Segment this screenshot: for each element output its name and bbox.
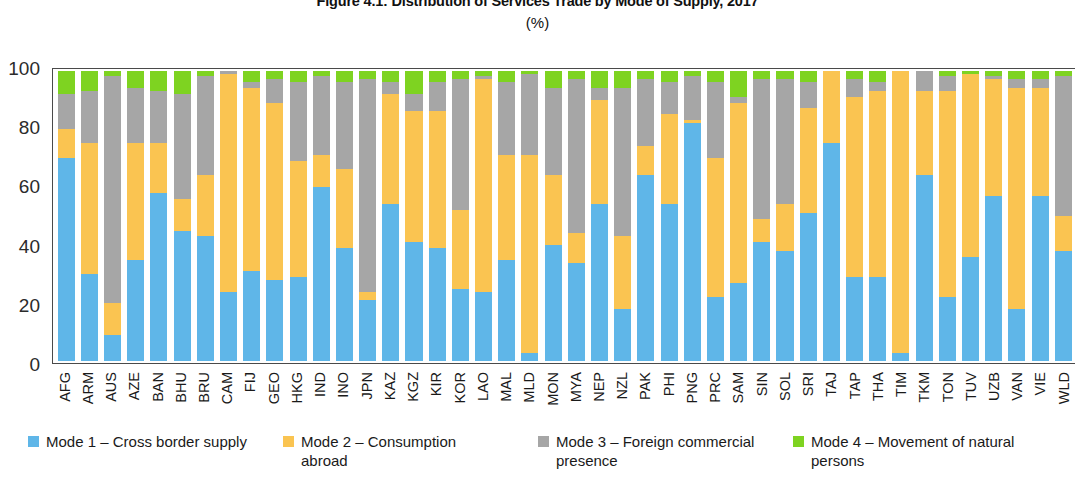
y-axis-tick: 20: [19, 295, 40, 314]
bar-mya[interactable]: [568, 71, 585, 362]
bar-nzl[interactable]: [614, 71, 631, 362]
x-axis-tick-label: GEO: [266, 372, 281, 404]
bar-segment-m2: [939, 91, 956, 297]
bar-mon[interactable]: [545, 71, 562, 362]
bar-sri[interactable]: [800, 71, 817, 362]
x-axis-tick-label: AZE: [127, 372, 142, 400]
y-axis: 020406080100: [0, 58, 46, 370]
bar-segment-m1: [985, 196, 1002, 362]
bar-kgz[interactable]: [405, 71, 422, 362]
bar-ino[interactable]: [336, 71, 353, 362]
bar-segment-m3: [266, 79, 283, 102]
bar-ind[interactable]: [313, 71, 330, 362]
x-axis-tick-label: KOR: [452, 372, 467, 403]
bar-segment-m4: [174, 71, 191, 94]
bar-wld[interactable]: [1055, 71, 1072, 362]
bar-png[interactable]: [684, 71, 701, 362]
x-axis-tick-label: TIM: [894, 372, 909, 397]
legend-item-m3[interactable]: Mode 3 – Foreign commercial presence: [538, 432, 793, 470]
bar-geo[interactable]: [266, 71, 283, 362]
bar-ton[interactable]: [939, 71, 956, 362]
x-axis-tick-label: TON: [940, 372, 955, 402]
bar-jpn[interactable]: [359, 71, 376, 362]
bar-segment-m1: [846, 277, 863, 361]
bar-segment-m1: [1008, 309, 1025, 361]
bar-bru[interactable]: [197, 71, 214, 362]
bar-segment-m1: [243, 271, 260, 361]
bar-aus[interactable]: [104, 71, 121, 362]
bar-segment-m2: [846, 97, 863, 277]
bar-mld[interactable]: [521, 71, 538, 362]
legend-label: Mode 1 – Cross border supply: [46, 432, 247, 451]
bar-segment-m1: [591, 204, 608, 361]
x-axis-tick-label: BAN: [150, 372, 165, 402]
bar-segment-m3: [846, 79, 863, 96]
bar-segment-m2: [81, 143, 98, 274]
bar-segment-m1: [869, 277, 886, 361]
x-axis-tick-arm: ARM: [76, 372, 99, 430]
x-axis-tick-label: HKG: [290, 372, 305, 403]
bar-kir[interactable]: [429, 71, 446, 362]
bar-sol[interactable]: [776, 71, 793, 362]
bar-aze[interactable]: [127, 71, 144, 362]
bar-uzb[interactable]: [985, 71, 1002, 362]
x-axis-tick-label: UZB: [987, 372, 1002, 401]
x-axis-tick-jpn: JPN: [355, 372, 378, 430]
bar-afg[interactable]: [58, 71, 75, 362]
bar-segment-m2: [336, 169, 353, 248]
bar-tuv[interactable]: [962, 71, 979, 362]
x-axis-tick-png: PNG: [680, 372, 703, 430]
bar-tha[interactable]: [869, 71, 886, 362]
legend-swatch-icon: [793, 436, 804, 447]
bar-segment-m2: [800, 108, 817, 213]
legend-swatch-icon: [283, 436, 294, 447]
bar-sin[interactable]: [753, 71, 770, 362]
x-axis-tick-mya: MYA: [564, 372, 587, 430]
legend-item-m2[interactable]: Mode 2 – Consumption abroad: [283, 432, 538, 470]
bar-taj[interactable]: [823, 71, 840, 362]
bar-segment-m1: [1032, 196, 1049, 362]
bar-prc[interactable]: [707, 71, 724, 362]
bar-lao[interactable]: [475, 71, 492, 362]
bar-fij[interactable]: [243, 71, 260, 362]
bar-vie[interactable]: [1032, 71, 1049, 362]
bar-segment-m4: [800, 71, 817, 83]
bar-segment-m2: [568, 233, 585, 262]
bar-nep[interactable]: [591, 71, 608, 362]
bar-segment-m4: [266, 71, 283, 80]
bar-sam[interactable]: [730, 71, 747, 362]
bar-kaz[interactable]: [382, 71, 399, 362]
bar-segment-m3: [359, 79, 376, 291]
bar-segment-m2: [521, 155, 538, 353]
x-axis-tick-label: LAO: [476, 372, 491, 401]
bar-van[interactable]: [1008, 71, 1025, 362]
bar-segment-m4: [429, 71, 446, 83]
bar-mal[interactable]: [498, 71, 515, 362]
bar-cam[interactable]: [220, 71, 237, 362]
bar-tap[interactable]: [846, 71, 863, 362]
x-axis-tick-phi: PHI: [657, 372, 680, 430]
bar-segment-m3: [684, 76, 701, 120]
bar-pak[interactable]: [637, 71, 654, 362]
bar-hkg[interactable]: [290, 71, 307, 362]
legend-item-m1[interactable]: Mode 1 – Cross border supply: [28, 432, 283, 470]
bar-ban[interactable]: [150, 71, 167, 362]
bar-segment-m1: [892, 353, 909, 362]
bar-segment-m4: [591, 71, 608, 88]
x-axis-tick-label: TKM: [917, 372, 932, 403]
bar-arm[interactable]: [81, 71, 98, 362]
bar-segment-m4: [568, 71, 585, 80]
bar-kor[interactable]: [452, 71, 469, 362]
bar-tim[interactable]: [892, 71, 909, 362]
bar-segment-m2: [382, 94, 399, 205]
bar-segment-m1: [498, 260, 515, 362]
x-axis-tick-label: MON: [545, 372, 560, 406]
bar-tkm[interactable]: [916, 71, 933, 362]
bar-bhu[interactable]: [174, 71, 191, 362]
legend-item-m4[interactable]: Mode 4 – Movement of natural persons: [793, 432, 1048, 470]
x-axis-tick-label: AFG: [57, 372, 72, 402]
bar-segment-m2: [290, 161, 307, 277]
bar-phi[interactable]: [661, 71, 678, 362]
x-axis-tick-aus: AUS: [99, 372, 122, 430]
x-axis-tick-sri: SRI: [797, 372, 820, 430]
